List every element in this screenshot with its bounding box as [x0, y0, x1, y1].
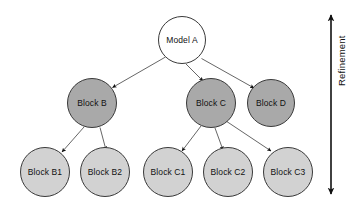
- node-label-block-b: Block B: [77, 99, 107, 108]
- node-block-c2[interactable]: Block C2: [203, 147, 253, 197]
- node-block-c1[interactable]: Block C1: [143, 147, 193, 197]
- node-block-b2[interactable]: Block B2: [80, 147, 130, 197]
- edge-model-a-block-b: [113, 57, 166, 88]
- node-block-d[interactable]: Block D: [247, 79, 295, 127]
- edge-block-c-block-c1: [182, 126, 201, 151]
- node-label-block-c: Block C: [196, 99, 226, 108]
- node-label-block-c3: Block C3: [271, 168, 306, 177]
- node-label-block-b2: Block B2: [88, 168, 122, 177]
- node-label-block-c1: Block C1: [151, 168, 186, 177]
- node-label-block-c2: Block C2: [211, 168, 246, 177]
- node-model-a[interactable]: Model A: [158, 16, 206, 64]
- node-label-block-b1: Block B1: [28, 168, 62, 177]
- node-block-b[interactable]: Block B: [67, 78, 117, 128]
- edge-model-a-block-c: [186, 64, 203, 81]
- node-block-c3[interactable]: Block C3: [263, 147, 313, 197]
- node-label-model-a: Model A: [166, 36, 197, 45]
- refinement-tree-diagram: Model A Block B Block C Block D Block B1…: [0, 0, 361, 209]
- refinement-axis-label: Refinement: [336, 0, 347, 86]
- node-block-c[interactable]: Block C: [186, 78, 236, 128]
- node-block-b1[interactable]: Block B1: [20, 147, 70, 197]
- node-label-block-d: Block D: [256, 99, 286, 108]
- edge-block-b-block-b1: [62, 127, 84, 152]
